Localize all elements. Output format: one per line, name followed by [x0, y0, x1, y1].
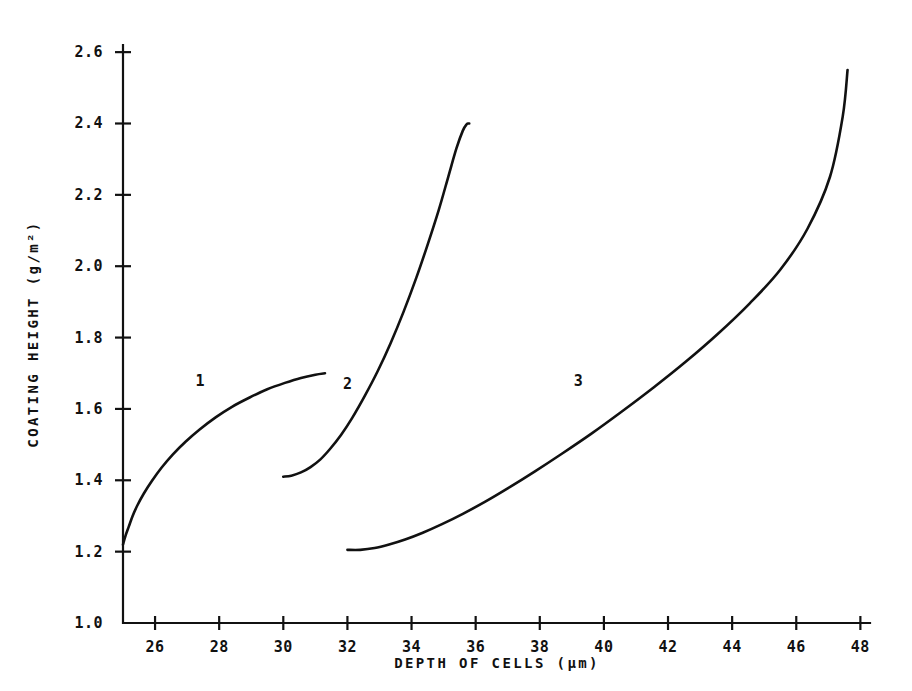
- y-tick-label: 1.8: [74, 329, 103, 347]
- y-tick-label: 2.4: [74, 114, 103, 132]
- data-curve-1: [123, 373, 325, 544]
- x-tick-label: 36: [466, 638, 485, 656]
- x-tick-label: 46: [787, 638, 806, 656]
- x-tick-label: 28: [210, 638, 229, 656]
- y-tick-label: 1.2: [74, 543, 103, 561]
- x-tick-labels: 262830323436384042444648: [146, 638, 870, 656]
- y-axis-title: COATING HEIGHT (g/m²): [25, 220, 41, 447]
- x-tick-label: 30: [274, 638, 293, 656]
- chart-figure: 262830323436384042444648 1.01.21.41.61.8…: [0, 0, 912, 691]
- axis-lines: [123, 45, 870, 623]
- x-tick-label: 38: [530, 638, 549, 656]
- x-tick-label: 34: [402, 638, 421, 656]
- y-tick-label: 1.0: [74, 614, 103, 632]
- data-curve-3: [347, 70, 847, 550]
- y-tick-label: 1.6: [74, 400, 103, 418]
- x-tick-label: 42: [658, 638, 677, 656]
- y-tick-label: 2.2: [74, 186, 103, 204]
- data-curve-2: [283, 123, 469, 476]
- y-tick-label: 1.4: [74, 471, 103, 489]
- axis-group: [115, 45, 870, 630]
- data-curves: [123, 70, 848, 550]
- curve-label-3: 3: [574, 372, 583, 390]
- curve-label-1: 1: [195, 372, 204, 390]
- x-tick-label: 40: [594, 638, 613, 656]
- y-tick-labels: 1.01.21.41.61.82.02.22.42.6: [74, 43, 103, 632]
- curve-labels: 123: [195, 372, 582, 394]
- x-tick-label: 48: [851, 638, 870, 656]
- curve-label-2: 2: [343, 375, 352, 393]
- y-tick-label: 2.6: [74, 43, 103, 61]
- y-tick-label: 2.0: [74, 257, 103, 275]
- coating-height-line-chart: 262830323436384042444648 1.01.21.41.61.8…: [0, 0, 912, 691]
- x-tick-label: 32: [338, 638, 357, 656]
- x-tick-label: 26: [146, 638, 165, 656]
- x-axis-title: DEPTH OF CELLS (µm): [394, 655, 600, 671]
- x-tick-label: 44: [723, 638, 742, 656]
